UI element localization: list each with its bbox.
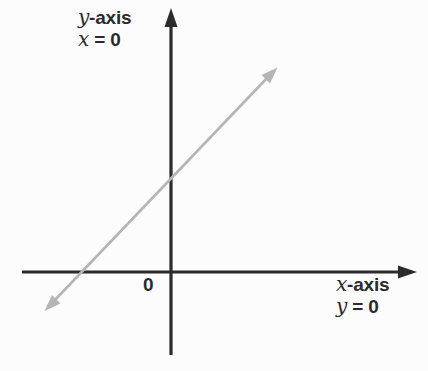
y-variable-glyph: y bbox=[78, 5, 89, 29]
origin-label: 0 bbox=[143, 275, 153, 296]
y-axis-equation-line: x = 0 bbox=[78, 29, 131, 51]
x-axis-suffix: -axis bbox=[347, 274, 389, 295]
x-axis-name-line: x-axis bbox=[336, 274, 389, 296]
x-axis-equation-line: y = 0 bbox=[336, 296, 389, 318]
x-axis-arrowhead bbox=[398, 266, 417, 279]
x-axis-label: x-axis y = 0 bbox=[336, 274, 389, 317]
diagonal-line bbox=[45, 68, 278, 312]
y-axis-arrowhead bbox=[165, 8, 178, 27]
x-axis-equation-rest: = 0 bbox=[347, 296, 378, 317]
y-axis-label: y-axis x = 0 bbox=[78, 7, 131, 50]
x-variable-glyph: x bbox=[78, 27, 89, 51]
diagram-canvas: y-axis x = 0 x-axis y = 0 0 bbox=[0, 0, 428, 371]
y-axis-suffix: -axis bbox=[89, 7, 131, 28]
y-axis-equation-rest: = 0 bbox=[89, 29, 120, 50]
y-axis-name-line: y-axis bbox=[78, 7, 131, 29]
x-variable-glyph-2: x bbox=[336, 272, 347, 296]
y-variable-glyph-2: y bbox=[336, 294, 347, 318]
